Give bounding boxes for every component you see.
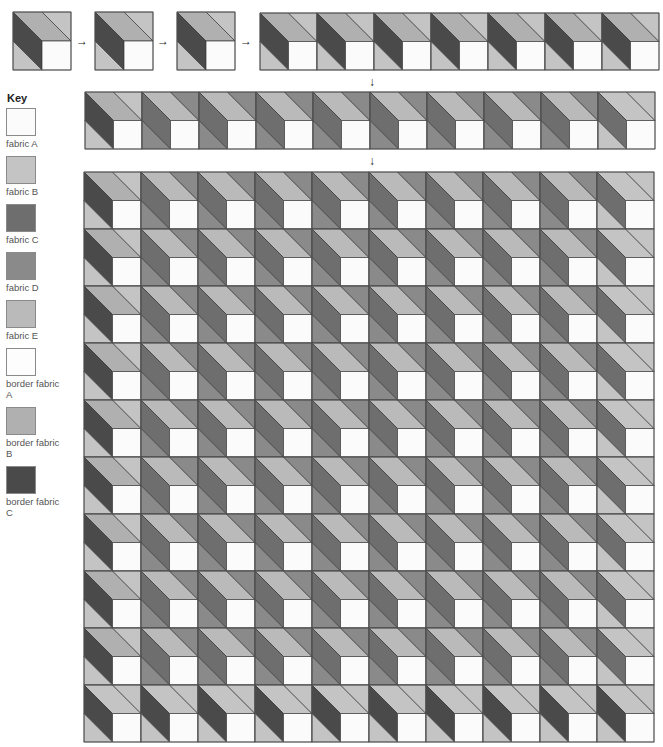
white-square [398, 429, 427, 458]
white-square [284, 201, 313, 230]
white-square [113, 258, 142, 287]
white-square [512, 201, 541, 230]
quilt-block [256, 92, 313, 149]
white-square [124, 41, 153, 70]
white-square [455, 657, 484, 686]
quilt-block [426, 457, 483, 514]
quilt-block [255, 685, 312, 742]
white-square [341, 315, 370, 344]
color-swatch [6, 252, 36, 280]
quilt-block [370, 92, 427, 149]
white-square [285, 121, 314, 150]
white-square [569, 543, 598, 572]
white-square [341, 600, 370, 629]
key-item-label: fabric D [6, 282, 66, 293]
white-square [227, 600, 256, 629]
quilt-block [369, 685, 426, 742]
white-square [512, 543, 541, 572]
quilt-block [312, 343, 369, 400]
quilt-block [540, 457, 597, 514]
white-square [569, 714, 598, 743]
quilt-block [198, 685, 255, 742]
quilt-block [312, 172, 369, 229]
white-square [512, 486, 541, 515]
quilt-block [483, 571, 540, 628]
white-square [206, 41, 235, 70]
color-swatch [6, 156, 36, 184]
white-square [170, 657, 199, 686]
key-item: fabric C [6, 204, 66, 245]
white-square [626, 657, 655, 686]
quilt-block [312, 400, 369, 457]
white-square [631, 42, 660, 71]
white-square [341, 372, 370, 401]
white-square [512, 372, 541, 401]
white-square [513, 121, 542, 150]
quilt-block [141, 172, 198, 229]
quilt-block [483, 685, 540, 742]
white-square [170, 315, 199, 344]
white-square [626, 372, 655, 401]
quilt-block [198, 571, 255, 628]
white-square [512, 315, 541, 344]
white-square [227, 201, 256, 230]
white-square [398, 258, 427, 287]
white-square [341, 201, 370, 230]
color-swatch [6, 108, 36, 136]
white-square [626, 714, 655, 743]
quilt-block [255, 571, 312, 628]
white-square [341, 657, 370, 686]
white-square [170, 714, 199, 743]
white-square [170, 429, 199, 458]
quilt-block [540, 571, 597, 628]
white-square [569, 600, 598, 629]
quilt-block [199, 92, 256, 149]
arrow-down-icon: ↓ [369, 76, 375, 88]
white-square [626, 258, 655, 287]
quilt-block [597, 571, 654, 628]
quilt-block [255, 400, 312, 457]
white-square [399, 121, 428, 150]
quilt-block [484, 92, 541, 149]
white-square [227, 372, 256, 401]
quilt-block [374, 13, 431, 70]
white-square [227, 315, 256, 344]
quilt-block [426, 229, 483, 286]
quilt-block [198, 457, 255, 514]
quilt-block [483, 343, 540, 400]
quilt-block [483, 229, 540, 286]
white-square [113, 429, 142, 458]
white-square [626, 600, 655, 629]
quilt-block [369, 571, 426, 628]
quilt-block [597, 343, 654, 400]
white-square [284, 429, 313, 458]
key-item: fabric D [6, 252, 66, 293]
quilt-block [597, 685, 654, 742]
quilt-block [255, 514, 312, 571]
key-item: border fabric B [6, 407, 66, 459]
quilt-block [312, 685, 369, 742]
quilt-block [255, 172, 312, 229]
white-square [512, 714, 541, 743]
white-square [346, 42, 375, 71]
quilt-block [540, 400, 597, 457]
quilt-block [545, 13, 602, 70]
quilt-block [597, 400, 654, 457]
white-square [284, 372, 313, 401]
quilt-block [369, 514, 426, 571]
quilt-block [13, 12, 71, 70]
white-square [398, 543, 427, 572]
white-square [455, 258, 484, 287]
arrow-right-icon: → [157, 35, 169, 47]
arrow-right-icon: → [240, 35, 252, 47]
white-square [171, 121, 200, 150]
white-square [341, 486, 370, 515]
quilt-block [141, 571, 198, 628]
quilt-block [198, 229, 255, 286]
key-item-label: fabric C [6, 234, 66, 245]
white-square [113, 486, 142, 515]
white-square [170, 201, 199, 230]
white-square [227, 657, 256, 686]
quilt-block [483, 400, 540, 457]
quilt-block [255, 343, 312, 400]
